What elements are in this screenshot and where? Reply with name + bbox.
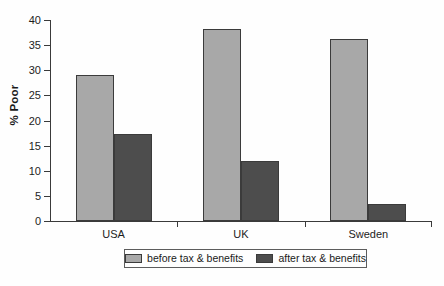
bar-sweden-after bbox=[368, 204, 406, 221]
figure-caption bbox=[34, 277, 434, 286]
x-tick-mark-end bbox=[431, 222, 432, 227]
legend-label-after: after tax & benefits bbox=[278, 253, 366, 264]
y-tick-label: 40 bbox=[29, 15, 41, 26]
y-tick-label: 10 bbox=[29, 165, 41, 176]
x-tick-label: UK bbox=[233, 228, 248, 240]
bar-uk-after bbox=[241, 161, 279, 221]
legend-label-before: before tax & benefits bbox=[147, 253, 243, 264]
y-tick-label: 20 bbox=[29, 115, 41, 126]
bar-chart-figure: % Poor 0510152025303540 USAUKSweden befo… bbox=[0, 0, 444, 286]
bar-group: UK bbox=[177, 20, 304, 221]
legend-item-before: before tax & benefits bbox=[125, 253, 243, 264]
x-axis-line bbox=[50, 221, 432, 222]
chart-legend: before tax & benefits after tax & benefi… bbox=[124, 249, 367, 268]
y-tick-label: 15 bbox=[29, 140, 41, 151]
bar-uk-before bbox=[203, 29, 241, 221]
y-tick-label: 25 bbox=[29, 90, 41, 101]
x-tick-label: USA bbox=[102, 228, 125, 240]
bar-usa-before bbox=[76, 75, 114, 221]
legend-item-after: after tax & benefits bbox=[256, 253, 366, 264]
y-tick-label: 5 bbox=[35, 190, 41, 201]
y-tick-label: 0 bbox=[35, 216, 41, 227]
bar-usa-after bbox=[114, 134, 152, 221]
y-tick-mark bbox=[44, 221, 50, 222]
legend-swatch-before-icon bbox=[125, 254, 142, 263]
y-tick-label: 30 bbox=[29, 65, 41, 76]
y-tick-label: 35 bbox=[29, 40, 41, 51]
y-axis-title: % Poor bbox=[8, 85, 20, 126]
x-tick-mark bbox=[305, 222, 306, 227]
plot-area: 0510152025303540 USAUKSweden bbox=[50, 20, 432, 222]
bar-sweden-before bbox=[330, 39, 368, 221]
x-tick-label: Sweden bbox=[348, 228, 388, 240]
bar-group: Sweden bbox=[305, 20, 432, 221]
bar-group: USA bbox=[50, 20, 177, 221]
legend-swatch-after-icon bbox=[256, 254, 273, 263]
x-tick-mark bbox=[177, 222, 178, 227]
